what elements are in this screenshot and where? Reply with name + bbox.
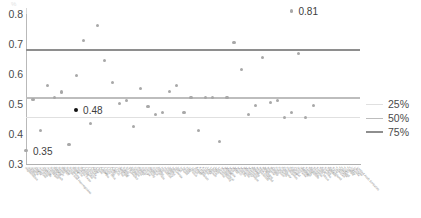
data-point-annotation: 0.35 xyxy=(33,145,52,156)
legend: 25%50%75% xyxy=(366,97,421,139)
data-point xyxy=(211,96,214,99)
data-point xyxy=(146,105,149,108)
data-point xyxy=(53,96,56,99)
chart-canvas: % 0.30.40.50.60.70.8 0.350.480.81 Afghan… xyxy=(0,0,421,218)
legend-line-swatch xyxy=(366,131,383,133)
data-point xyxy=(24,149,27,152)
data-point xyxy=(254,104,257,107)
data-point xyxy=(283,116,286,119)
legend-label: 50% xyxy=(388,112,409,124)
data-point xyxy=(60,90,63,93)
legend-label: 75% xyxy=(388,126,409,138)
y-axis-tick-labels: 0.30.40.50.60.70.8 xyxy=(0,14,23,164)
data-point xyxy=(154,113,157,116)
legend-line-swatch xyxy=(366,118,383,119)
data-point xyxy=(103,59,106,62)
data-point xyxy=(276,99,279,102)
x-tick-label: United Arab Emirates xyxy=(356,166,380,192)
data-point xyxy=(189,96,192,99)
data-point xyxy=(46,84,49,87)
data-point-annotation: 0.48 xyxy=(83,105,102,116)
data-point xyxy=(67,143,70,146)
y-tick-label: 0.3 xyxy=(8,158,23,170)
data-point xyxy=(297,52,300,55)
data-point xyxy=(218,140,221,143)
data-point xyxy=(175,84,178,87)
reference-line-50pct xyxy=(26,97,360,98)
legend-item[interactable]: 75% xyxy=(366,125,421,139)
data-point-annotation: 0.81 xyxy=(299,6,318,17)
legend-item[interactable]: 50% xyxy=(366,111,421,125)
y-tick-label: 0.8 xyxy=(8,8,23,20)
plot-area: 0.350.480.81 xyxy=(26,14,360,164)
highlighted-data-point xyxy=(74,108,78,112)
data-point xyxy=(111,81,114,84)
data-point xyxy=(82,39,85,42)
data-point xyxy=(161,111,164,114)
data-point xyxy=(125,99,128,102)
data-point xyxy=(312,104,315,107)
data-point xyxy=(204,96,207,99)
data-point xyxy=(290,111,293,114)
legend-label: 25% xyxy=(388,98,409,110)
data-point xyxy=(132,125,135,128)
reference-line-75pct xyxy=(26,49,360,51)
data-point xyxy=(96,24,99,27)
data-point xyxy=(290,9,293,12)
data-point xyxy=(197,129,200,132)
data-point xyxy=(75,74,78,77)
data-point xyxy=(232,41,235,44)
y-tick-label: 0.7 xyxy=(8,38,23,50)
data-point xyxy=(225,96,228,99)
data-point xyxy=(261,56,264,59)
data-point xyxy=(89,122,92,125)
x-axis-category-labels: AfghanistanAlbaniaAlgeriaAngolaArgentina… xyxy=(26,166,361,218)
reference-line-25pct xyxy=(26,117,360,118)
data-point xyxy=(118,102,121,105)
data-point xyxy=(240,68,243,71)
data-point xyxy=(139,87,142,90)
legend-item[interactable]: 25% xyxy=(366,97,421,111)
y-tick-label: 0.4 xyxy=(8,128,23,140)
data-point xyxy=(39,129,42,132)
y-tick-label: 0.5 xyxy=(8,98,23,110)
data-point xyxy=(31,98,34,101)
data-point xyxy=(168,90,171,93)
data-point xyxy=(269,101,272,104)
clipped-top-text: % xyxy=(11,1,17,7)
y-tick-label: 0.6 xyxy=(8,68,23,80)
legend-line-swatch xyxy=(366,104,383,105)
data-point xyxy=(182,111,185,114)
